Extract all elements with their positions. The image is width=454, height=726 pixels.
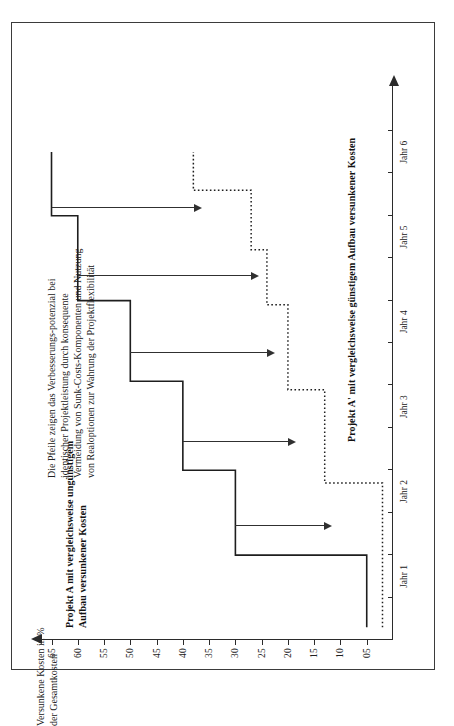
value-tick	[130, 640, 131, 645]
value-tick-label: 60	[73, 648, 83, 658]
value-tick-label: 10	[335, 648, 345, 658]
page-sheet-frame: Versunkene Kosten in % der Gesamtkosten …	[11, 22, 435, 670]
value-tick-label: 65	[47, 648, 57, 658]
plot-area: 65605550454035302520151005 Jahr 1Jahr 2J…	[41, 80, 393, 640]
value-tick-label: 20	[283, 648, 293, 658]
value-tick	[209, 640, 210, 645]
time-tick-label: Jahr 5	[399, 226, 409, 249]
value-tick-label: 55	[99, 648, 109, 658]
time-tick-label: Jahr 3	[399, 395, 409, 418]
value-tick	[78, 640, 79, 645]
value-tick	[262, 640, 263, 645]
value-tick-label: 30	[230, 648, 240, 658]
value-tick	[288, 640, 289, 645]
series-plot-svg	[41, 80, 393, 640]
value-tick	[235, 640, 236, 645]
value-tick	[314, 640, 315, 645]
value-tick-label: 50	[125, 648, 135, 658]
value-tick	[52, 640, 53, 645]
value-tick-label: 05	[362, 648, 372, 658]
value-tick	[340, 640, 341, 645]
value-tick-label: 35	[204, 648, 214, 658]
value-tick	[104, 640, 105, 645]
value-tick-label: 25	[257, 648, 267, 658]
figure-canvas: Versunkene Kosten in % der Gesamtkosten …	[27, 44, 451, 692]
value-tick	[367, 640, 368, 645]
value-tick-label: 15	[309, 648, 319, 658]
improvement-arrow	[130, 352, 267, 353]
value-tick-label: 40	[178, 648, 188, 658]
improvement-arrow	[183, 441, 288, 442]
time-tick-label: Jahr 6	[399, 141, 409, 164]
time-tick-label: Jahr 4	[399, 310, 409, 333]
value-tick-label: 45	[152, 648, 162, 658]
value-tick	[157, 640, 158, 645]
series-b-step-line	[193, 152, 382, 627]
time-tick-label: Jahr 2	[399, 480, 409, 503]
time-tick-label: Jahr 1	[399, 565, 409, 588]
value-tick	[183, 640, 184, 645]
